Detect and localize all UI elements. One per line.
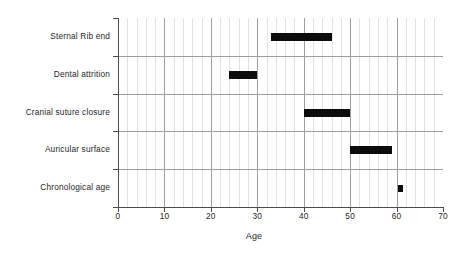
grid-line-horizontal [118, 169, 443, 170]
x-axis-tick-label: 60 [382, 211, 412, 221]
x-axis-title: Age [0, 231, 467, 241]
y-axis-tick [113, 169, 118, 170]
grid-line-major-vertical [257, 18, 258, 207]
grid-line-minor-vertical [378, 18, 379, 207]
grid-line-minor-vertical [192, 18, 193, 207]
grid-line-minor-vertical [276, 18, 277, 207]
grid-line-minor-vertical [406, 18, 407, 207]
x-axis-tick-label: 30 [242, 211, 272, 221]
grid-line-major-vertical [397, 18, 398, 207]
grid-line-minor-vertical [415, 18, 416, 207]
y-axis-tick [113, 18, 118, 19]
y-axis-label-auricular-surface: Auricular surface [0, 144, 110, 154]
y-axis-label-chronological-age: Chronological age [0, 182, 110, 192]
grid-line-major-vertical [164, 18, 165, 207]
grid-line-minor-vertical [183, 18, 184, 207]
range-bar [398, 185, 403, 192]
range-bar [229, 71, 257, 79]
age-estimation-range-chart: Sternal Rib endDental attritionCranial s… [0, 0, 467, 255]
range-bar [350, 146, 392, 154]
y-axis-label-cranial-suture-closure: Cranial suture closure [0, 107, 110, 117]
x-axis-line [118, 207, 444, 208]
grid-line-minor-vertical [387, 18, 388, 207]
grid-line-minor-vertical [294, 18, 295, 207]
y-axis-label-sternal-rib-end: Sternal Rib end [0, 31, 110, 41]
x-axis-tick-label: 40 [289, 211, 319, 221]
range-bar [304, 109, 350, 117]
grid-line-minor-vertical [267, 18, 268, 207]
grid-line-minor-vertical [424, 18, 425, 207]
plot-area [118, 18, 443, 207]
grid-line-horizontal [118, 56, 443, 57]
grid-line-minor-vertical [202, 18, 203, 207]
grid-line-horizontal [118, 131, 443, 132]
grid-line-minor-vertical [155, 18, 156, 207]
grid-line-minor-vertical [369, 18, 370, 207]
grid-line-major-vertical [350, 18, 351, 207]
grid-line-horizontal [118, 94, 443, 95]
x-axis-tick-label: 0 [103, 211, 133, 221]
y-axis-line [118, 18, 119, 208]
grid-line-minor-vertical [127, 18, 128, 207]
y-axis-tick [113, 131, 118, 132]
grid-line-minor-vertical [220, 18, 221, 207]
grid-line-major-vertical [211, 18, 212, 207]
x-axis-tick-label: 50 [335, 211, 365, 221]
grid-line-minor-vertical [174, 18, 175, 207]
y-axis-tick [113, 56, 118, 57]
x-axis-tick-label: 70 [428, 211, 458, 221]
grid-lines [118, 18, 443, 207]
grid-line-minor-vertical [434, 18, 435, 207]
range-bar [271, 33, 331, 41]
grid-line-minor-vertical [146, 18, 147, 207]
grid-line-minor-vertical [248, 18, 249, 207]
grid-line-minor-vertical [229, 18, 230, 207]
x-axis-title-text: Age [246, 231, 263, 241]
grid-line-minor-vertical [285, 18, 286, 207]
x-axis-tick-label: 10 [149, 211, 179, 221]
grid-line-minor-vertical [239, 18, 240, 207]
grid-line-minor-vertical [137, 18, 138, 207]
y-axis-label-dental-attrition: Dental attrition [0, 69, 110, 79]
x-axis-tick-label: 20 [196, 211, 226, 221]
grid-line-minor-vertical [359, 18, 360, 207]
y-axis-tick [113, 94, 118, 95]
